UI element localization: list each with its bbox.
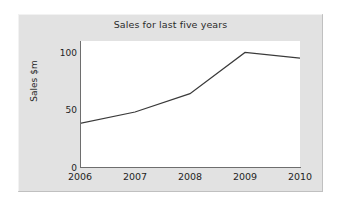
figure-container: Sales for last five years Sales $m 05010… [0,0,341,205]
x-tick-label: 2007 [113,172,157,182]
y-axis-line [80,41,81,168]
y-axis-tick-labels: 050100 [44,41,77,168]
x-axis-line [80,167,301,168]
chart-title: Sales for last five years [18,19,323,30]
sales-line-series [80,52,300,123]
x-tick-label: 2010 [278,172,322,182]
x-tick-label: 2009 [223,172,267,182]
x-tick-label: 2008 [168,172,212,182]
y-tick-label: 50 [47,106,77,115]
chart-panel: Sales for last five years Sales $m 05010… [18,14,323,192]
x-axis-tick-labels: 20062007200820092010 [80,172,301,186]
line-series-svg [80,41,300,167]
plot-area [80,41,300,167]
y-axis-title: Sales $m [29,51,39,111]
x-tick-label: 2006 [58,172,102,182]
y-tick-label: 100 [47,49,77,58]
